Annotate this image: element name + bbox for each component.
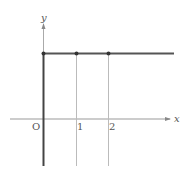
- y-axis-label: y: [40, 12, 47, 23]
- x-axis-label: x: [174, 113, 180, 124]
- graph-point-1: [75, 52, 79, 56]
- graph-point-0: [42, 52, 46, 56]
- origin-label: O: [32, 121, 40, 132]
- tick-label-1: 1: [77, 121, 83, 132]
- graph-point-2: [107, 52, 111, 56]
- diagram-canvas: y x O 1 2: [0, 0, 186, 172]
- tick-label-2: 2: [109, 121, 115, 132]
